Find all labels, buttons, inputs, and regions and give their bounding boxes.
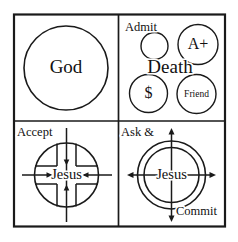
a-plus-label: A+: [188, 35, 209, 52]
accept-label: Accept: [17, 125, 53, 139]
panel-death: A+ $ Friend Admit Death: [125, 20, 218, 113]
death-label: Death: [147, 56, 193, 77]
god-label: God: [50, 56, 83, 77]
panel-god: God: [24, 26, 108, 110]
accept-arrow-right: [83, 172, 113, 178]
panel-accept: Jesus Accept: [17, 125, 112, 222]
admit-label: Admit: [125, 20, 157, 34]
accept-arrow-left: [22, 172, 53, 178]
panel-ask-commit: Jesus Ask & Commit: [121, 125, 218, 222]
accept-jesus-label: Jesus: [51, 166, 82, 182]
friend-label: Friend: [184, 89, 209, 99]
accept-arrow-top: [64, 160, 70, 166]
diagram-canvas: God A+ $ Friend Admit Death: [0, 0, 238, 242]
dollar-label: $: [145, 84, 153, 101]
ask-label: Ask &: [121, 125, 154, 139]
ask-jesus-label: Jesus: [156, 166, 187, 182]
commit-label: Commit: [176, 204, 218, 218]
gospel-diagram: God A+ $ Friend Admit Death: [0, 0, 238, 242]
accept-arrow-bottom: [64, 185, 70, 191]
